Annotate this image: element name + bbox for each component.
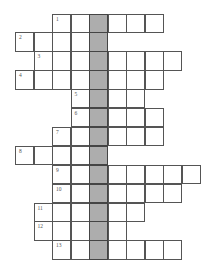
crossword-cell[interactable] <box>163 165 182 184</box>
crossword-cell[interactable] <box>126 51 145 70</box>
clue-number: 4 <box>19 72 22 78</box>
clue-number: 7 <box>56 129 59 135</box>
key-column-cell[interactable] <box>89 108 108 127</box>
crossword-cell[interactable] <box>52 203 71 222</box>
crossword-cell[interactable]: 5 <box>71 89 90 108</box>
crossword-cell[interactable] <box>52 221 71 240</box>
crossword-cell[interactable] <box>71 146 90 165</box>
key-column-cell[interactable] <box>89 146 108 165</box>
clue-number: 11 <box>38 205 43 211</box>
clue-number: 13 <box>56 242 62 248</box>
crossword-cell[interactable]: 4 <box>15 70 34 89</box>
clue-number: 1 <box>56 16 59 22</box>
crossword-cell[interactable] <box>145 240 164 259</box>
crossword-cell[interactable]: 10 <box>52 184 71 203</box>
crossword-cell[interactable] <box>71 32 90 51</box>
crossword-cell[interactable] <box>108 70 127 89</box>
crossword-cell[interactable] <box>126 184 145 203</box>
crossword-cell[interactable] <box>71 14 90 33</box>
key-column-cell[interactable] <box>89 32 108 51</box>
crossword-cell[interactable] <box>126 108 145 127</box>
crossword-cell[interactable] <box>52 70 71 89</box>
crossword-cell[interactable] <box>52 146 71 165</box>
clue-number: 6 <box>75 110 78 116</box>
clue-number: 2 <box>19 34 22 40</box>
crossword-cell[interactable]: 11 <box>34 203 53 222</box>
crossword-cell[interactable] <box>145 108 164 127</box>
crossword-cell[interactable]: 3 <box>34 51 53 70</box>
crossword-cell[interactable] <box>71 221 90 240</box>
crossword-cell[interactable]: 6 <box>71 108 90 127</box>
crossword-cell[interactable] <box>34 70 53 89</box>
crossword-cell[interactable] <box>145 127 164 146</box>
key-column-cell[interactable] <box>89 240 108 259</box>
crossword-cell[interactable] <box>126 70 145 89</box>
crossword-cell[interactable] <box>34 32 53 51</box>
crossword-cell[interactable] <box>182 165 201 184</box>
crossword-cell[interactable] <box>126 165 145 184</box>
crossword-cell[interactable] <box>108 203 127 222</box>
crossword-cell[interactable] <box>71 70 90 89</box>
crossword-cell[interactable] <box>71 165 90 184</box>
crossword-cell[interactable] <box>145 14 164 33</box>
crossword-cell[interactable] <box>145 165 164 184</box>
key-column-cell[interactable] <box>89 165 108 184</box>
key-column-cell[interactable] <box>89 184 108 203</box>
crossword-cell[interactable] <box>145 70 164 89</box>
crossword-cell[interactable]: 2 <box>15 32 34 51</box>
key-column-cell[interactable] <box>89 127 108 146</box>
crossword-cell[interactable] <box>52 51 71 70</box>
crossword-cell[interactable]: 8 <box>15 146 34 165</box>
crossword-cell[interactable] <box>163 184 182 203</box>
crossword-cell[interactable] <box>126 203 145 222</box>
key-column-cell[interactable] <box>89 203 108 222</box>
crossword-cell[interactable] <box>71 184 90 203</box>
crossword-cell[interactable] <box>108 89 127 108</box>
crossword-cell[interactable] <box>34 146 53 165</box>
crossword-cell[interactable] <box>108 165 127 184</box>
crossword-cell[interactable] <box>126 240 145 259</box>
crossword-grid: 12345678910111213 <box>0 0 210 275</box>
crossword-cell[interactable] <box>126 127 145 146</box>
clue-number: 8 <box>19 148 22 154</box>
crossword-cell[interactable] <box>145 184 164 203</box>
crossword-cell[interactable] <box>108 108 127 127</box>
clue-number: 9 <box>56 167 59 173</box>
crossword-cell[interactable] <box>126 14 145 33</box>
crossword-cell[interactable] <box>71 240 90 259</box>
crossword-cell[interactable] <box>108 240 127 259</box>
crossword-cell[interactable] <box>108 14 127 33</box>
crossword-cell[interactable] <box>145 51 164 70</box>
clue-number: 3 <box>38 53 41 59</box>
crossword-cell[interactable] <box>108 184 127 203</box>
crossword-cell[interactable] <box>108 221 127 240</box>
crossword-cell[interactable] <box>163 240 182 259</box>
crossword-cell[interactable]: 9 <box>52 165 71 184</box>
key-column-cell[interactable] <box>89 14 108 33</box>
clue-number: 5 <box>75 91 78 97</box>
crossword-cell[interactable] <box>71 51 90 70</box>
crossword-cell[interactable]: 13 <box>52 240 71 259</box>
clue-number: 12 <box>38 223 44 229</box>
key-column-cell[interactable] <box>89 221 108 240</box>
crossword-cell[interactable] <box>108 127 127 146</box>
crossword-cell[interactable] <box>71 203 90 222</box>
crossword-cell[interactable]: 12 <box>34 221 53 240</box>
crossword-cell[interactable]: 1 <box>52 14 71 33</box>
crossword-cell[interactable]: 7 <box>52 127 71 146</box>
crossword-cell[interactable] <box>71 127 90 146</box>
crossword-cell[interactable] <box>163 51 182 70</box>
key-column-cell[interactable] <box>89 70 108 89</box>
crossword-cell[interactable] <box>108 51 127 70</box>
crossword-cell[interactable] <box>52 32 71 51</box>
key-column-cell[interactable] <box>89 89 108 108</box>
key-column-cell[interactable] <box>89 51 108 70</box>
crossword-cell[interactable] <box>126 89 145 108</box>
clue-number: 10 <box>56 186 62 192</box>
